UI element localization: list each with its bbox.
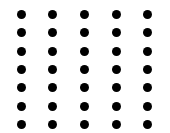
dot — [143, 83, 152, 92]
dot — [17, 28, 26, 37]
dot — [17, 102, 26, 111]
dot — [143, 102, 152, 111]
dot — [80, 102, 89, 111]
dot — [17, 83, 26, 92]
dot — [143, 10, 152, 19]
dot — [80, 28, 89, 37]
dot — [112, 28, 121, 37]
dot — [80, 47, 89, 56]
dot — [143, 65, 152, 74]
dot — [17, 120, 26, 129]
dot-grid — [0, 0, 170, 133]
dot — [112, 83, 121, 92]
dot — [48, 83, 57, 92]
dot — [80, 83, 89, 92]
dot — [143, 28, 152, 37]
dot — [112, 120, 121, 129]
dot — [112, 102, 121, 111]
dot — [143, 47, 152, 56]
dot — [48, 28, 57, 37]
dot — [48, 120, 57, 129]
dot — [80, 120, 89, 129]
dot — [112, 65, 121, 74]
dot — [112, 10, 121, 19]
dot — [80, 10, 89, 19]
dot — [48, 47, 57, 56]
dot — [17, 47, 26, 56]
dot — [17, 10, 26, 19]
dot — [112, 47, 121, 56]
dot — [143, 120, 152, 129]
dot — [48, 102, 57, 111]
dot — [17, 65, 26, 74]
dot — [80, 65, 89, 74]
dot — [48, 10, 57, 19]
dot — [48, 65, 57, 74]
